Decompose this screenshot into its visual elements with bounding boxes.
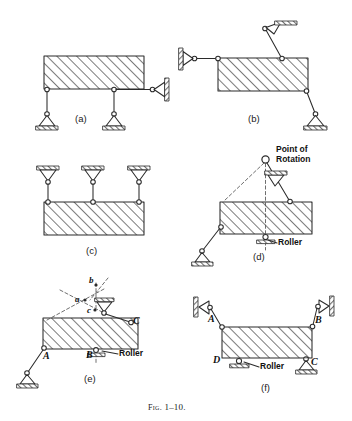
node-label-B-e: B <box>86 349 93 360</box>
node-label-b-e: b <box>89 275 94 285</box>
ceiling-c-1 <box>37 166 59 170</box>
body-d <box>220 202 312 234</box>
ground-d-upper <box>265 171 287 175</box>
support-triangle-d-base <box>195 253 210 263</box>
panel-label-a: (a) <box>75 113 87 124</box>
ground-e-upper <box>95 298 114 302</box>
ground-d-base <box>192 262 213 266</box>
panel-c-drawing <box>37 166 150 235</box>
roller-f <box>236 358 241 363</box>
panel-label-d: (d) <box>253 251 265 262</box>
node-label-D-f: D <box>213 354 220 365</box>
support-triangle-e-base <box>20 375 35 385</box>
support-triangle-d <box>268 175 284 186</box>
panel-label-e: (e) <box>84 373 96 384</box>
body-f <box>222 327 312 358</box>
point-of-rotation-marker <box>262 156 269 163</box>
roller-label-d: Roller <box>278 238 302 248</box>
ceiling-c-2 <box>82 166 104 170</box>
panel-label-c: (c) <box>86 245 97 256</box>
link-d-left <box>203 228 220 250</box>
point-of-rotation-label-line2: Rotation <box>276 155 310 165</box>
dash-d-left <box>224 163 264 201</box>
support-triangle-a-wall <box>154 82 165 97</box>
pin-b-body-left <box>216 56 221 61</box>
body-a <box>44 56 144 89</box>
pin-d-body-right <box>288 199 293 204</box>
pin-c-body-2 <box>91 200 96 205</box>
node-label-a-e: a <box>75 294 80 304</box>
support-triangle-b-base <box>307 116 324 127</box>
wall-b-left <box>179 48 183 70</box>
pin-d-body-left <box>219 225 224 230</box>
pin-b-body-bottom <box>304 89 309 94</box>
ground-a-left <box>36 126 58 130</box>
node-label-C-f: C <box>311 356 318 367</box>
node-label-B-f: B <box>315 314 322 325</box>
pin-f-A-body <box>220 325 225 330</box>
wall-f-right <box>330 296 334 316</box>
body-b <box>218 58 308 91</box>
pin-e-upper <box>102 311 107 316</box>
figure-drawing <box>0 0 352 421</box>
panel-label-f: (f) <box>261 382 270 393</box>
roller-f-plate <box>230 364 249 368</box>
ceiling-c-3 <box>128 166 150 170</box>
panel-label-b: (b) <box>248 113 260 124</box>
body-c <box>44 202 144 235</box>
node-label-c-e: c <box>87 305 91 315</box>
node-label-A-e: A <box>43 350 50 361</box>
pin-a-top-left <box>45 87 50 92</box>
figure-caption: Fig. 1–10. <box>148 402 186 412</box>
link-b-lower <box>307 93 315 114</box>
body-e <box>43 318 138 349</box>
ground-e-base <box>17 384 38 388</box>
pin-f-B-wall <box>316 304 321 309</box>
node-label-C-e: C <box>133 315 140 326</box>
point-b-e <box>94 283 97 286</box>
point-a-e <box>83 298 86 301</box>
wall-b-upper <box>275 21 297 25</box>
panel-a-drawing <box>36 56 169 130</box>
pin-c-body-3 <box>137 200 142 205</box>
support-triangle-a-right <box>106 116 122 127</box>
support-triangle-a-left <box>39 116 55 127</box>
ground-a-right <box>103 126 125 130</box>
link-e-A <box>28 350 43 372</box>
figure-caption-prefix: Fig. <box>148 403 162 412</box>
wall-f-left <box>194 297 198 317</box>
support-triangle-b-wall <box>183 52 193 66</box>
roller-d <box>263 234 268 239</box>
ground-b <box>304 126 327 130</box>
ground-f-C <box>296 370 317 374</box>
pin-b-body-top <box>280 56 285 61</box>
figure-caption-number: 1–10. <box>164 402 185 412</box>
roller-label-f: Roller <box>260 362 284 372</box>
wall-a <box>165 78 169 101</box>
figure-container: (a) (b) (c) (d) (e) (f) Point of Rotatio… <box>0 0 352 421</box>
roller-e <box>94 348 99 353</box>
point-c-e <box>93 308 96 311</box>
node-label-A-f: A <box>208 313 215 324</box>
pin-c-body-1 <box>46 200 51 205</box>
panel-d-drawing <box>192 156 312 266</box>
roller-label-e: Roller <box>119 349 143 359</box>
